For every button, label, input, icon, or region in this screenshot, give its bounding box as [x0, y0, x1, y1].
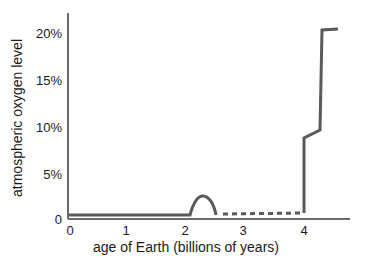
x-axis-label: age of Earth (billions of years): [93, 239, 279, 255]
line-solid-rise: [304, 29, 338, 213]
y-tick-0: 0: [55, 212, 62, 227]
x-tick-3: 3: [239, 223, 246, 238]
y-tick-10: 10%: [36, 120, 62, 135]
oxygen-chart: 20% 15% 10% 5% 0 0 1 2 3 4 age of Earth …: [0, 0, 367, 272]
line-solid-early: [69, 196, 216, 215]
x-tick-0: 0: [66, 223, 73, 238]
data-lines: [69, 29, 338, 215]
x-tick-2: 2: [181, 223, 188, 238]
y-tick-labels: 20% 15% 10% 5% 0: [36, 26, 62, 227]
line-dashed-mid: [223, 213, 304, 214]
y-tick-15: 15%: [36, 73, 62, 88]
axes: [68, 13, 350, 219]
y-tick-20: 20%: [36, 26, 62, 41]
x-tick-1: 1: [122, 223, 129, 238]
x-tick-labels: 0 1 2 3 4: [66, 223, 307, 238]
x-tick-4: 4: [300, 223, 307, 238]
y-axis-label: atmospheric oxygen level: [9, 39, 25, 197]
y-tick-5: 5%: [43, 167, 62, 182]
